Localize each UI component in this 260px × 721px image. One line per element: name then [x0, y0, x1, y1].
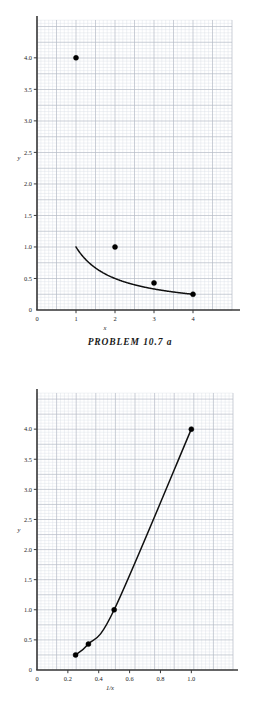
- x-tick-label: 4: [191, 315, 195, 322]
- x-tick-label: 0: [35, 315, 38, 322]
- x-tick-label: 0.2: [64, 675, 72, 682]
- y-tick-labels: 00.51.01.52.02.53.03.54.0: [24, 425, 32, 673]
- x-axis-label: x: [103, 324, 107, 331]
- y-axis-label: y: [17, 154, 21, 161]
- data-point-marker: [73, 652, 78, 657]
- y-tick-label: 3.5: [24, 456, 32, 463]
- data-point-marker: [112, 607, 117, 612]
- chart-canvas-top: 0123400.51.01.52.02.53.03.54.0xy: [0, 0, 260, 337]
- data-markers: [73, 427, 194, 658]
- figure-problem-10-7-a-bottom: 00.20.40.60.81.000.51.01.52.02.53.03.54.…: [0, 360, 260, 721]
- figure-caption: PROBLEM 10.7 a: [0, 337, 260, 347]
- x-tick-labels: 00.20.40.60.81.0: [35, 675, 195, 682]
- y-tick-label: 2.0: [24, 180, 32, 187]
- y-tick-label: 0.5: [24, 275, 32, 282]
- y-tick-label: 2.5: [24, 149, 32, 156]
- x-tick-label: 0.4: [95, 675, 104, 682]
- y-tick-labels: 00.51.01.52.02.53.03.54.0: [24, 54, 32, 313]
- y-tick-label: 1.5: [24, 576, 32, 583]
- y-tick-label: 0: [29, 666, 32, 673]
- y-tick-label: 1.5: [24, 212, 32, 219]
- y-tick-label: 4.0: [24, 425, 32, 432]
- x-tick-label: 0.8: [156, 675, 164, 682]
- y-tick-label: 2.5: [24, 516, 32, 523]
- y-tick-label: 0: [29, 306, 32, 313]
- data-point-marker: [191, 292, 196, 297]
- tick-marks: [34, 429, 192, 673]
- x-tick-label: 2: [113, 315, 116, 322]
- y-axis-label: y: [17, 526, 21, 533]
- x-tick-labels: 01234: [35, 315, 195, 322]
- tick-marks: [34, 58, 193, 313]
- data-point-marker: [189, 427, 194, 432]
- y-tick-label: 0.5: [24, 636, 32, 643]
- y-tick-label: 3.0: [24, 486, 32, 493]
- data-point-marker: [86, 642, 91, 647]
- y-tick-label: 3.0: [24, 117, 32, 124]
- y-tick-label: 1.0: [24, 606, 32, 613]
- figure-problem-10-7-a-top: 0123400.51.01.52.02.53.03.54.0xy PROBLEM…: [0, 0, 260, 360]
- y-tick-label: 3.5: [24, 86, 32, 93]
- x-tick-label: 0: [35, 675, 38, 682]
- x-tick-label: 1.0: [187, 675, 195, 682]
- chart-canvas-bottom: 00.20.40.60.81.000.51.01.52.02.53.03.54.…: [0, 360, 260, 721]
- data-point-marker: [152, 280, 157, 285]
- x-tick-label: 0.6: [126, 675, 134, 682]
- x-tick-label: 1: [74, 315, 77, 322]
- y-tick-label: 4.0: [24, 54, 32, 61]
- y-tick-label: 1.0: [24, 243, 32, 250]
- data-point-marker: [113, 244, 118, 249]
- x-axis-label: 1/x: [106, 684, 114, 691]
- data-point-marker: [74, 55, 79, 60]
- y-tick-label: 2.0: [24, 546, 32, 553]
- x-tick-label: 3: [152, 315, 155, 322]
